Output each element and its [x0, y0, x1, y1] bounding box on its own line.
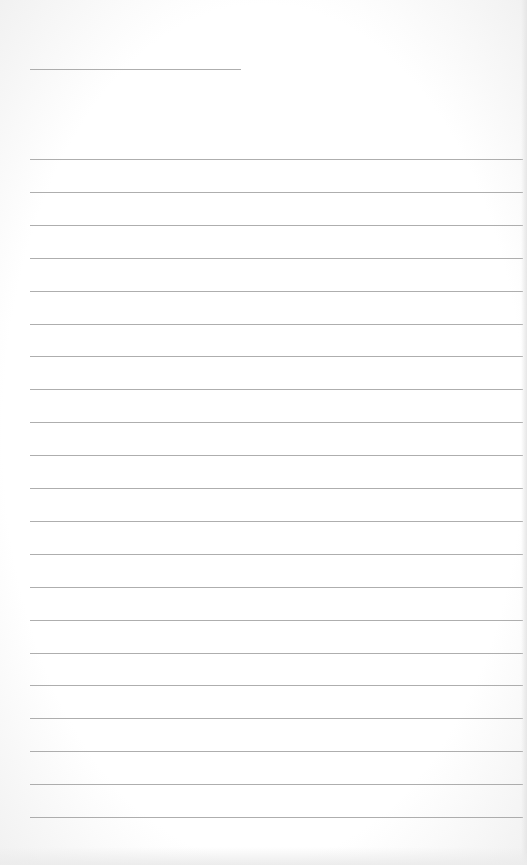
- ruled-line: [30, 620, 523, 621]
- ruled-line: [30, 225, 523, 226]
- ruled-line: [30, 159, 523, 160]
- ruled-line: [30, 784, 523, 785]
- ruled-line: [30, 817, 523, 818]
- ruled-line: [30, 455, 523, 456]
- ruled-line: [30, 653, 523, 654]
- ruled-line: [30, 422, 523, 423]
- lined-paper-page: [0, 0, 527, 865]
- ruled-line: [30, 751, 523, 752]
- ruled-line: [30, 554, 523, 555]
- ruled-line: [30, 718, 523, 719]
- ruled-line: [30, 587, 523, 588]
- ruled-line: [30, 324, 523, 325]
- ruled-line: [30, 685, 523, 686]
- ruled-line: [30, 389, 523, 390]
- title-line: [30, 69, 241, 70]
- ruled-line: [30, 488, 523, 489]
- page-bottom-shadow: [0, 847, 527, 865]
- ruled-line: [30, 356, 523, 357]
- ruled-line: [30, 258, 523, 259]
- ruled-line: [30, 192, 523, 193]
- ruled-line: [30, 521, 523, 522]
- page-edge-shadow: [521, 0, 527, 865]
- ruled-line: [30, 291, 523, 292]
